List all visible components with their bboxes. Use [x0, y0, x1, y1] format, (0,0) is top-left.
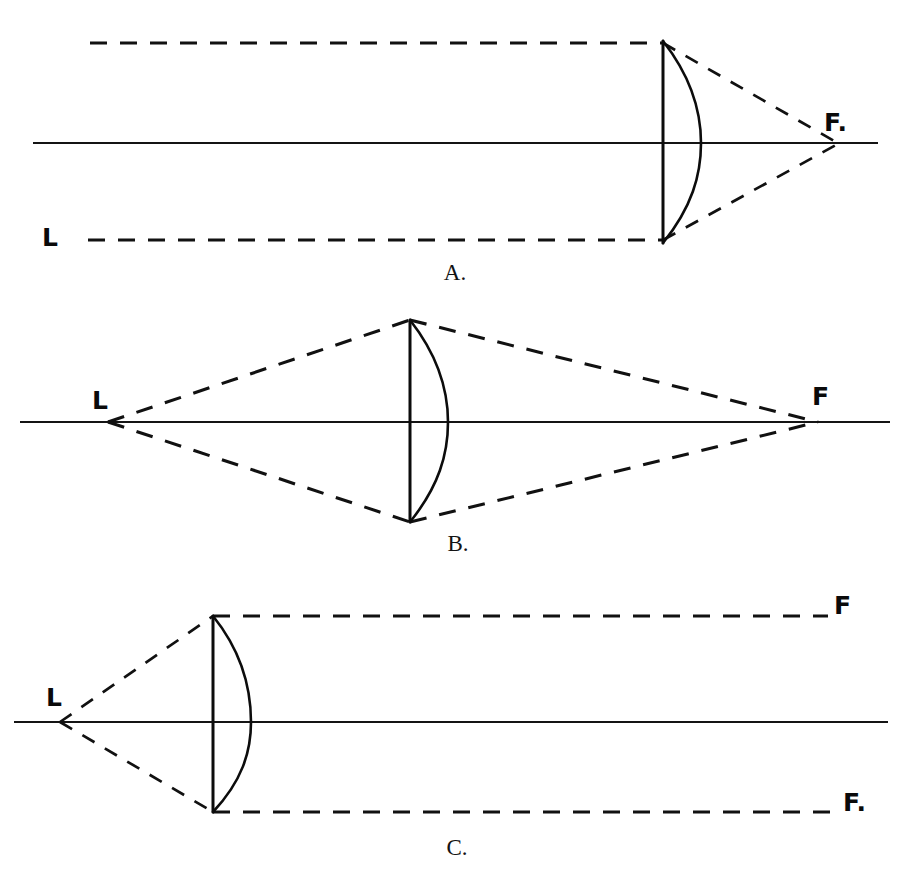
focus-label-f-lower-c: F. [843, 788, 866, 817]
panel-caption-b: B. [447, 531, 468, 556]
incident-ray-upper-b [108, 320, 410, 422]
lens-diagram-figure: Action of a convex lens on light from so… [0, 0, 912, 878]
refracted-ray-bottom-a [663, 145, 836, 240]
source-label-l-c: L [46, 683, 62, 712]
panel-b: L F B. [20, 320, 890, 556]
incident-ray-lower-c [60, 722, 213, 812]
incident-ray-upper-c [60, 616, 213, 722]
panel-caption-c: C. [446, 835, 467, 860]
refracted-ray-top-a [663, 43, 836, 142]
focus-label-f-upper-c: F [834, 591, 851, 620]
source-label-l-b: L [92, 386, 108, 415]
focus-label-f-a: F. [824, 108, 847, 137]
panel-c: L F F. C. [14, 591, 888, 860]
panel-a: L F. A. [33, 41, 878, 285]
focus-label-f-b: F [812, 382, 829, 411]
incident-ray-lower-b [108, 422, 410, 522]
source-label-l-a: L [42, 223, 58, 252]
refracted-ray-upper-b [410, 320, 818, 422]
diagram-canvas: L F. A. L F B. L F [0, 0, 912, 878]
lens-convex-face-c [213, 616, 251, 812]
panel-caption-a: A. [444, 260, 466, 285]
refracted-ray-lower-b [410, 422, 818, 522]
